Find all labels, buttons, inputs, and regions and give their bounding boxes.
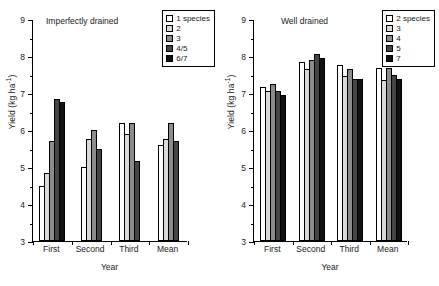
y-axis-title-close: ) bbox=[7, 75, 17, 78]
x-tick-label-second: Second bbox=[296, 244, 325, 254]
y-axis-title-exponent-right: -1 bbox=[224, 78, 231, 84]
x-tick-label-mean: Mean bbox=[157, 244, 178, 254]
legend-item: 5 bbox=[386, 43, 430, 53]
y-tick-label-6: 6 bbox=[241, 126, 246, 137]
x-tick-labels-right: FirstSecondThirdMean bbox=[253, 244, 407, 258]
legend-item: 4/5 bbox=[166, 43, 210, 53]
x-tick-label-second: Second bbox=[76, 244, 105, 254]
legend-label: 3 bbox=[176, 34, 180, 43]
legend-swatch-icon bbox=[386, 45, 393, 52]
x-axis-title-left: Year bbox=[32, 262, 187, 272]
bar bbox=[134, 161, 140, 241]
y-tick-label-7: 7 bbox=[20, 89, 25, 100]
legend-item: 7 bbox=[386, 53, 430, 63]
legend-item: 3 bbox=[166, 33, 210, 43]
legend-label: 5 bbox=[396, 44, 400, 53]
legend-swatch-icon bbox=[386, 15, 393, 22]
bar-group-first bbox=[254, 20, 293, 241]
legend-item: 6/7 bbox=[166, 53, 210, 63]
legend-label: 7 bbox=[396, 54, 400, 63]
y-axis-title: Yield (kg ha-1) bbox=[5, 47, 17, 157]
y-tick-label-9: 9 bbox=[20, 15, 25, 26]
bar-group-first bbox=[33, 20, 72, 241]
x-tick-label-mean: Mean bbox=[377, 244, 398, 254]
y-axis-title-text-right: Yield (kg ha bbox=[226, 83, 236, 129]
legend-label: 1 species bbox=[176, 14, 210, 23]
legend-swatch-icon bbox=[166, 55, 173, 62]
bar-group-second bbox=[293, 20, 332, 241]
bar bbox=[396, 79, 402, 241]
legend-label: 3 bbox=[396, 24, 400, 33]
y-tick-label-6: 6 bbox=[20, 126, 25, 137]
legend-swatch-icon bbox=[166, 15, 173, 22]
bar bbox=[96, 149, 102, 242]
bar bbox=[357, 79, 363, 241]
y-tick-label-4: 4 bbox=[241, 200, 246, 211]
y-tick-label-5: 5 bbox=[20, 163, 25, 174]
y-tick-label-8: 8 bbox=[241, 52, 246, 63]
legend-label: 2 bbox=[176, 24, 180, 33]
y-tick-label-9: 9 bbox=[241, 15, 246, 26]
x-tick-label-first: First bbox=[264, 244, 281, 254]
legend-item: 1 species bbox=[166, 13, 210, 23]
bar bbox=[173, 141, 179, 241]
legend-item: 2 bbox=[166, 23, 210, 33]
legend-swatch-icon bbox=[386, 35, 393, 42]
legend-swatch-icon bbox=[386, 55, 393, 62]
y-axis-title-text: Yield (kg ha bbox=[7, 83, 17, 129]
bar bbox=[59, 102, 65, 241]
x-tick-label-third: Third bbox=[340, 244, 359, 254]
y-tick-label-5: 5 bbox=[241, 163, 246, 174]
y-axis-title-exponent: -1 bbox=[5, 78, 12, 84]
bar bbox=[280, 95, 286, 241]
y-axis-title-right: Yield (kg ha-1) bbox=[224, 47, 236, 157]
legend-label: 4/5 bbox=[176, 44, 187, 53]
legend-swatch-icon bbox=[166, 25, 173, 32]
x-axis-title-right: Year bbox=[253, 262, 407, 272]
x-tick bbox=[188, 241, 189, 245]
y-tick-label-7: 7 bbox=[241, 89, 246, 100]
legend-swatch-icon bbox=[386, 25, 393, 32]
x-tick-label-first: First bbox=[43, 244, 60, 254]
y-tick-label-3: 3 bbox=[20, 237, 25, 248]
y-axis-title-close-right: ) bbox=[226, 75, 236, 78]
x-tick-labels-left: FirstSecondThirdMean bbox=[32, 244, 187, 258]
panel-imperfectly-drained: Yield (kg ha-1) Imperfectly drained 3456… bbox=[0, 0, 219, 286]
x-tick bbox=[408, 241, 409, 245]
legend-item: 4 bbox=[386, 33, 430, 43]
legend-swatch-icon bbox=[166, 35, 173, 42]
bar-group-third bbox=[111, 20, 150, 241]
legend-item: 2 species bbox=[386, 13, 430, 23]
legend-swatch-icon bbox=[166, 45, 173, 52]
bar-group-third bbox=[331, 20, 370, 241]
bar bbox=[319, 58, 325, 241]
y-tick-label-3: 3 bbox=[241, 237, 246, 248]
panel-well-drained: Yield (kg ha-1) Well drained 3456789 Fir… bbox=[219, 0, 439, 286]
legend-right: 2 species3457 bbox=[382, 10, 435, 67]
figure-root: Yield (kg ha-1) Imperfectly drained 3456… bbox=[0, 0, 439, 286]
x-tick-label-third: Third bbox=[119, 244, 138, 254]
y-tick-label-4: 4 bbox=[20, 200, 25, 211]
legend-left: 1 species234/56/7 bbox=[162, 10, 215, 67]
bar-group-second bbox=[72, 20, 111, 241]
legend-item: 3 bbox=[386, 23, 430, 33]
legend-label: 6/7 bbox=[176, 54, 187, 63]
legend-label: 4 bbox=[396, 34, 400, 43]
y-tick-label-8: 8 bbox=[20, 52, 25, 63]
legend-label: 2 species bbox=[396, 14, 430, 23]
